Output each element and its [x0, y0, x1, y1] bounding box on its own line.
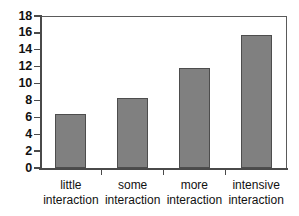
category-label-line1: intensive [221, 178, 291, 193]
y-axis-tick [34, 83, 40, 84]
y-axis-tick-label: 6 [2, 111, 32, 124]
bar [55, 114, 86, 168]
y-axis-tick [34, 167, 40, 168]
x-axis-tick [225, 169, 226, 175]
y-axis-tick [34, 49, 40, 50]
x-axis-tick [163, 169, 164, 175]
category-label-line2: interaction [221, 193, 291, 208]
bar-chart-figure: 024681012141618 littleinteractionsomeint… [0, 0, 299, 216]
x-axis-category-label: littleinteraction [36, 178, 106, 207]
x-axis-tick [101, 169, 102, 175]
x-axis-category-label: intensiveinteraction [221, 178, 291, 207]
category-label-line2: interaction [36, 193, 106, 208]
y-axis-tick [34, 100, 40, 101]
y-axis-tick [34, 134, 40, 135]
y-axis-tick-label: 4 [2, 128, 32, 141]
category-label-line1: more [160, 178, 230, 193]
category-label-line2: interaction [98, 193, 168, 208]
y-axis-tick-label: 0 [2, 162, 32, 175]
y-axis-tick [34, 66, 40, 67]
category-label-line1: some [98, 178, 168, 193]
y-axis-tick [34, 15, 40, 16]
x-axis-category-label: moreinteraction [160, 178, 230, 207]
y-axis-tick-label: 14 [2, 43, 32, 56]
y-axis-tick-label: 16 [2, 26, 32, 39]
y-axis-tick [34, 150, 40, 151]
category-label-line1: little [36, 178, 106, 193]
bar [241, 35, 272, 168]
y-axis-tick-label: 2 [2, 145, 32, 158]
y-axis-tick-label: 18 [2, 10, 32, 23]
y-axis-tick [34, 32, 40, 33]
bar [117, 98, 148, 168]
bar [179, 68, 210, 168]
y-axis-line [40, 15, 42, 169]
category-label-line2: interaction [160, 193, 230, 208]
x-axis-category-label: someinteraction [98, 178, 168, 207]
y-axis-tick-label: 10 [2, 77, 32, 90]
y-axis-tick [34, 117, 40, 118]
y-axis-tick-label: 12 [2, 60, 32, 73]
y-axis-tick-label: 8 [2, 94, 32, 107]
